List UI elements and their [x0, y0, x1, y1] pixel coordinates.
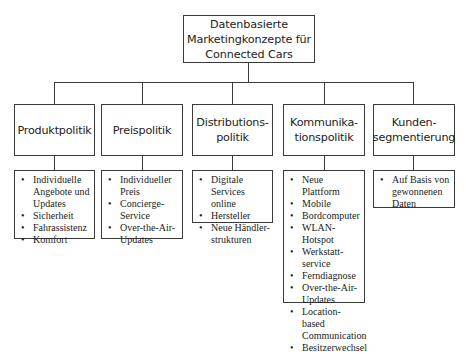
node-distributionspolitik: Distributions- politik	[192, 104, 273, 156]
list-item: Sicherheit	[19, 210, 92, 222]
connector-preis-items	[142, 155, 143, 170]
list-item: Neue Händler-strukturen	[197, 222, 270, 246]
connector-distribution-items	[232, 155, 233, 170]
list-item: Over-the-Air-Updates	[106, 222, 180, 246]
list-item: Ferndiagnose	[288, 270, 362, 282]
node-label-line-1: Kommunika-	[290, 115, 358, 130]
connector-kunden-items	[413, 155, 414, 170]
node-label: Produktpolitik	[17, 123, 91, 138]
bullet-list: Auf Basis von gewonnenen Daten	[378, 174, 452, 210]
connector-preis	[142, 82, 143, 104]
connector-kommunikation-items	[324, 155, 325, 170]
node-label-line-2: segmentierung	[373, 130, 455, 145]
node-label-line-1: Kunden-	[373, 115, 455, 130]
list-item: Neue Plattform	[288, 174, 362, 198]
items-produktpolitik: Individuelle Angebote und Updates Sicher…	[14, 170, 95, 239]
list-item: Fahrassistenz	[19, 222, 92, 234]
list-item: Location-based Communication	[288, 306, 362, 342]
items-kommunikationspolitik: Neue Plattform Mobile Bordcomputer WLAN-…	[283, 170, 365, 303]
connector-kommunikation	[324, 82, 325, 104]
bullet-list: Individuelle Angebote und Updates Sicher…	[19, 174, 92, 246]
items-preispolitik: Individueller Preis Concierge-Service Ov…	[101, 170, 183, 239]
list-item: WLAN-Hotspot	[288, 222, 362, 246]
bullet-list: Digitale Services online Hersteller Neue…	[197, 174, 270, 246]
list-item: Over-the-Air-Updates	[288, 282, 362, 306]
root-line-2: Marketingkonzepte für	[187, 32, 311, 47]
node-label-line-2: politik	[196, 130, 268, 145]
node-produktpolitik: Produktpolitik	[14, 104, 95, 156]
bullet-list: Individueller Preis Concierge-Service Ov…	[106, 174, 180, 246]
connector-kunden	[413, 82, 414, 104]
node-kommunikationspolitik: Kommunika- tionspolitik	[283, 104, 365, 156]
items-distributionspolitik: Digitale Services online Hersteller Neue…	[192, 170, 273, 223]
root-node: Datenbasierte Marketingkonzepte für Conn…	[183, 15, 315, 63]
list-item: Auf Basis von gewonnenen Daten	[378, 174, 452, 210]
node-label: Preispolitik	[113, 123, 171, 138]
list-item: Komfort	[19, 234, 92, 246]
node-kundensegmentierung: Kunden- segmentierung	[373, 104, 455, 156]
connector-produkt	[54, 82, 55, 104]
connector-produkt-items	[54, 155, 55, 170]
root-line-1: Datenbasierte	[187, 17, 311, 32]
node-label-line-2: tionspolitik	[290, 130, 358, 145]
root-line-3: Connected Cars	[187, 47, 311, 62]
list-item: Hersteller	[197, 210, 270, 222]
list-item: Individuelle Angebote und Updates	[19, 174, 92, 210]
list-item: Individueller Preis	[106, 174, 180, 198]
connector-distribution	[232, 82, 233, 104]
items-kundensegmentierung: Auf Basis von gewonnenen Daten	[373, 170, 455, 208]
list-item: Bordcomputer	[288, 210, 362, 222]
node-preispolitik: Preispolitik	[101, 104, 183, 156]
list-item: Werkstatt-service	[288, 246, 362, 270]
list-item: Besitzerwechsel	[288, 342, 362, 354]
list-item: Concierge-Service	[106, 198, 180, 222]
list-item: Digitale Services online	[197, 174, 270, 210]
connector-root-down	[248, 63, 249, 82]
list-item: Mobile	[288, 198, 362, 210]
bullet-list: Neue Plattform Mobile Bordcomputer WLAN-…	[288, 174, 362, 354]
connector-horizontal-bus	[54, 82, 414, 83]
node-label-line-1: Distributions-	[196, 115, 268, 130]
